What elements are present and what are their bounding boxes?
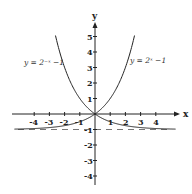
x-axis-arrow-icon xyxy=(174,112,180,117)
y-axis-label: y xyxy=(91,11,98,21)
y-tick-label: 5 xyxy=(87,32,93,42)
y-axis-arrow-icon xyxy=(93,22,98,28)
y-tick-label: 4 xyxy=(87,47,93,57)
y-tick-label: -3 xyxy=(84,156,93,166)
y-tick-label: -4 xyxy=(84,171,93,181)
y-tick-label: 1 xyxy=(87,94,93,104)
x-axis-label: x xyxy=(183,109,189,119)
y-tick-label: -2 xyxy=(84,140,93,150)
left-curve xyxy=(55,36,175,130)
x-tick-label: -4 xyxy=(29,117,38,127)
y-tick-label: -1 xyxy=(84,125,93,135)
function-graph: x y -4-3-2-1123454321-1-2-3-4 y = 2⁻ˣ −1… xyxy=(0,0,192,194)
x-tick-label: -3 xyxy=(44,117,53,127)
x-tick-label: 4 xyxy=(153,117,159,127)
right-curve-label: y = 2ˣ −1 xyxy=(129,56,166,65)
right-curve xyxy=(14,36,134,130)
x-tick-label: 3 xyxy=(138,117,144,127)
y-tick-label: 3 xyxy=(87,63,93,73)
left-curve-label: y = 2⁻ˣ −1 xyxy=(23,58,64,67)
y-tick-label: 2 xyxy=(87,78,93,88)
